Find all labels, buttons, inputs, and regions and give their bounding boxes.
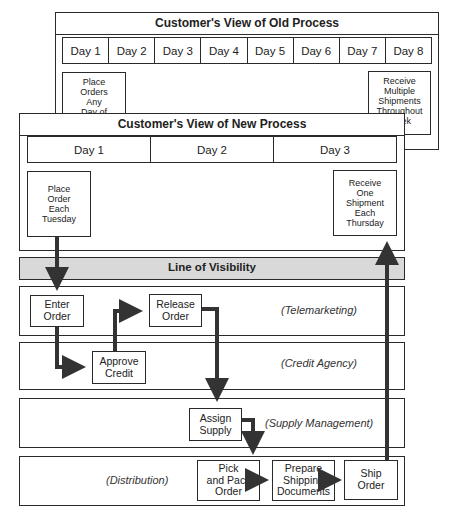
arrow-approve-to-release	[115, 311, 139, 351]
flow-arrows	[0, 0, 457, 521]
arrow-enter-to-approve	[57, 327, 82, 367]
arrow-assign-to-pick	[242, 420, 253, 451]
arrow-release-to-assign	[202, 309, 217, 398]
